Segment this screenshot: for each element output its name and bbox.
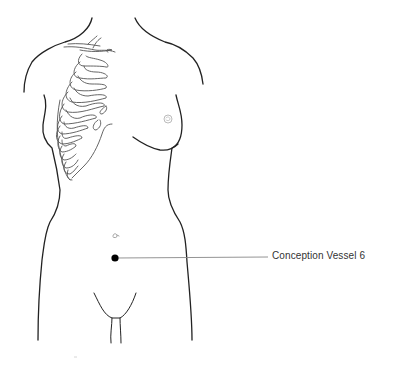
clavicle-upper	[68, 36, 101, 48]
right-shoulder-outline	[135, 18, 203, 84]
leader-line	[115, 257, 268, 258]
torso-illustration	[0, 0, 395, 376]
right-nipple	[164, 115, 172, 123]
nipple-detail	[166, 117, 170, 121]
inner-thigh-left	[111, 318, 112, 343]
acupoint-label: Conception Vessel 6	[272, 250, 365, 261]
groin-outline	[94, 293, 136, 318]
navel	[113, 234, 119, 238]
torso-diagram: Conception Vessel 6	[0, 0, 395, 376]
right-breast-outline	[133, 137, 178, 150]
rib-cage	[56, 54, 112, 180]
inner-thigh-right	[120, 318, 121, 343]
right-torso-outline	[168, 95, 192, 340]
acupoint-marker	[111, 254, 118, 261]
